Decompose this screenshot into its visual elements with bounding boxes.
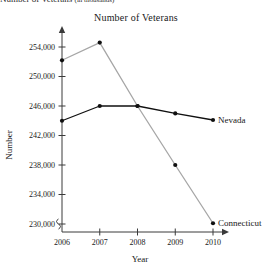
axis-lines (57, 26, 230, 235)
series-label-connecticut: Connecticut (218, 218, 262, 228)
data-point (60, 58, 64, 62)
y-tick-label: 234,000 (29, 190, 55, 199)
y-tick-label: 246,000 (29, 102, 55, 111)
data-series-layer (60, 40, 215, 225)
data-point (173, 163, 177, 167)
series-line-nevada (62, 106, 213, 121)
x-tick-label: 2010 (205, 238, 221, 247)
data-point (173, 111, 177, 115)
y-axis-ticks: 230,000234,000238,000242,000246,000250,0… (29, 43, 66, 229)
line-chart-plot: 230,000234,000238,000242,000246,000250,0… (0, 0, 272, 275)
x-tick-label: 2006 (54, 238, 70, 247)
series-line-connecticut (62, 43, 213, 224)
y-axis-title: Number (4, 130, 14, 160)
y-tick-label: 238,000 (29, 161, 55, 170)
y-tick-label: 250,000 (29, 72, 55, 81)
data-point (60, 119, 64, 123)
y-tick-label: 242,000 (29, 131, 55, 140)
data-point (211, 118, 215, 122)
x-tick-label: 2007 (92, 238, 108, 247)
series-label-nevada: Nevada (218, 115, 245, 125)
y-tick-label: 254,000 (29, 43, 55, 52)
x-tick-label: 2008 (130, 238, 146, 247)
chart-container: Number of Veterans (in thousands) Number… (0, 0, 272, 275)
series-end-labels: NevadaConnecticut (218, 115, 262, 228)
data-point (135, 104, 139, 108)
x-tick-label: 2009 (167, 238, 183, 247)
data-point (98, 104, 102, 108)
data-point (211, 221, 215, 225)
x-axis-ticks: 20062007200820092010 (54, 229, 221, 248)
y-tick-label: 230,000 (29, 220, 55, 229)
x-axis-title: Year (132, 254, 149, 264)
data-point (98, 40, 102, 44)
